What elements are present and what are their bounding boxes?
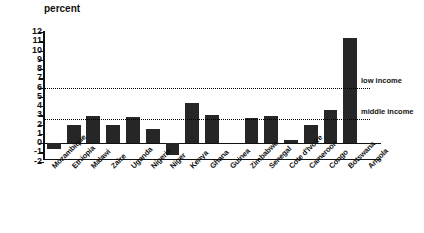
bar (126, 117, 140, 143)
chart-container: percent -2-10123456789101112 low incomem… (0, 0, 424, 233)
bar (324, 110, 338, 143)
bar (284, 140, 298, 143)
bar (106, 125, 120, 143)
reference-line-label: low income (361, 76, 402, 85)
bar (47, 143, 61, 149)
reference-line (44, 88, 370, 89)
y-tick-label: 12 (32, 26, 42, 37)
y-axis-title: percent (44, 3, 80, 14)
bar (185, 103, 199, 143)
bar (146, 129, 160, 143)
bar (86, 116, 100, 143)
bar (343, 38, 357, 143)
reference-line (44, 119, 370, 120)
reference-line-label: middle income (361, 107, 414, 116)
bar (245, 118, 259, 143)
